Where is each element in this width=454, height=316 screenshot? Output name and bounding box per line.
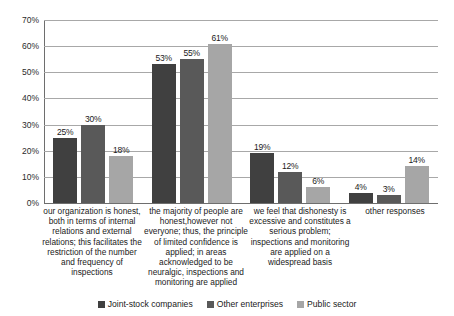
legend-label: Other enterprises bbox=[217, 299, 283, 309]
bar[interactable]: 53% bbox=[152, 64, 176, 203]
bar-chart: 25%30%18%53%55%61%19%12%6%4%3%14% 0%10%2… bbox=[0, 0, 454, 316]
x-axis-category-label: other responses bbox=[354, 206, 436, 216]
bar-value-label: 3% bbox=[383, 184, 395, 194]
x-axis-category-label: the majority of people are honest,howeve… bbox=[144, 206, 248, 288]
bar[interactable]: 3% bbox=[377, 195, 401, 203]
bar[interactable]: 25% bbox=[53, 138, 77, 203]
bar-value-label: 14% bbox=[409, 155, 425, 165]
y-axis-tick: 50% bbox=[22, 67, 39, 77]
x-axis-category-labels: our organization is honest, both in term… bbox=[44, 206, 438, 294]
bar-value-label: 19% bbox=[254, 142, 270, 152]
legend-label: Joint-stock companies bbox=[108, 299, 193, 309]
x-axis-baseline bbox=[44, 203, 438, 204]
x-axis-category-label: we feel that dishonesty is excessive and… bbox=[248, 206, 352, 267]
bar-value-label: 25% bbox=[57, 127, 73, 137]
bar-value-label: 55% bbox=[184, 48, 200, 58]
bar-value-label: 30% bbox=[85, 114, 101, 124]
legend-swatch-icon bbox=[207, 301, 214, 308]
bar-value-label: 12% bbox=[282, 161, 298, 171]
legend-label: Public sector bbox=[307, 299, 356, 309]
y-axis-tick: 40% bbox=[22, 93, 39, 103]
bar[interactable]: 19% bbox=[250, 153, 274, 203]
bar[interactable]: 14% bbox=[405, 166, 429, 203]
bar[interactable]: 6% bbox=[306, 187, 330, 203]
bar[interactable]: 61% bbox=[208, 44, 232, 203]
legend-item[interactable]: Public sector bbox=[297, 299, 356, 309]
legend-swatch-icon bbox=[297, 301, 304, 308]
y-axis-tick: 10% bbox=[22, 172, 39, 182]
y-axis-tick: 0% bbox=[27, 198, 39, 208]
y-axis-tick: 20% bbox=[22, 146, 39, 156]
bar-group: 4%3%14% bbox=[349, 20, 429, 203]
bar-value-label: 18% bbox=[113, 145, 129, 155]
bar[interactable]: 4% bbox=[349, 193, 373, 203]
y-axis-tick: 60% bbox=[22, 41, 39, 51]
bar-value-label: 6% bbox=[312, 176, 324, 186]
bar-group: 25%30%18% bbox=[53, 20, 133, 203]
bar[interactable]: 30% bbox=[81, 125, 105, 203]
chart-legend: Joint-stock companiesOther enterprisesPu… bbox=[0, 299, 454, 309]
bar-group: 53%55%61% bbox=[152, 20, 232, 203]
legend-swatch-icon bbox=[98, 301, 105, 308]
bar-value-label: 61% bbox=[212, 33, 228, 43]
bar-value-label: 4% bbox=[355, 182, 367, 192]
x-axis-category-label: our organization is honest, both in term… bbox=[40, 206, 144, 277]
bar[interactable]: 12% bbox=[278, 172, 302, 203]
y-axis-tick: 30% bbox=[22, 120, 39, 130]
y-axis-tick: 70% bbox=[22, 15, 39, 25]
bar-value-label: 53% bbox=[156, 53, 172, 63]
legend-item[interactable]: Other enterprises bbox=[207, 299, 283, 309]
legend-item[interactable]: Joint-stock companies bbox=[98, 299, 193, 309]
plot-area: 25%30%18%53%55%61%19%12%6%4%3%14% bbox=[44, 20, 438, 203]
bar[interactable]: 18% bbox=[109, 156, 133, 203]
bar[interactable]: 55% bbox=[180, 59, 204, 203]
bar-group: 19%12%6% bbox=[250, 20, 330, 203]
